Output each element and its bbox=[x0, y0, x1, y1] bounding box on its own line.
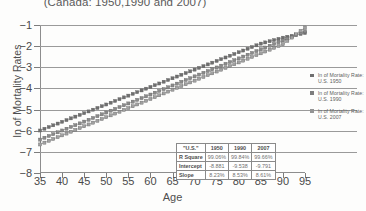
data-point-marker bbox=[61, 134, 64, 137]
data-point-marker bbox=[136, 91, 139, 94]
data-point-marker bbox=[162, 80, 165, 83]
legend-item[interactable]: ln of Mortality Rate:U.S. 1950 bbox=[310, 72, 366, 84]
data-point-marker bbox=[237, 57, 240, 60]
data-point-marker bbox=[69, 130, 72, 133]
data-point-marker bbox=[118, 110, 121, 113]
x-axis-label: 90 bbox=[277, 175, 289, 187]
data-point-marker bbox=[250, 55, 253, 58]
data-point-marker bbox=[114, 99, 117, 102]
data-point-marker bbox=[211, 72, 214, 75]
data-series bbox=[38, 30, 306, 141]
data-point-marker bbox=[122, 96, 125, 99]
data-point-marker bbox=[255, 50, 258, 53]
data-point-marker bbox=[96, 119, 99, 122]
table-cell: 99.84% bbox=[228, 153, 251, 162]
data-point-marker bbox=[122, 108, 125, 111]
data-point-marker bbox=[105, 103, 108, 106]
legend-item[interactable]: ln of Mortality Rate:U.S. 2007 bbox=[310, 108, 366, 120]
data-point-marker bbox=[149, 93, 152, 96]
data-point-marker bbox=[100, 117, 103, 120]
legend-swatch-icon bbox=[310, 109, 314, 113]
data-point-marker bbox=[87, 123, 90, 126]
data-point-marker bbox=[273, 39, 276, 42]
data-point-marker bbox=[224, 56, 227, 59]
data-point-marker bbox=[259, 48, 262, 51]
data-point-marker bbox=[184, 78, 187, 81]
data-point-marker bbox=[180, 80, 183, 83]
legend-label-line2: U.S. 1990 bbox=[318, 96, 366, 102]
data-point-marker bbox=[87, 110, 90, 113]
data-point-marker bbox=[264, 46, 267, 49]
data-point-marker bbox=[38, 143, 41, 146]
data-point-marker bbox=[69, 125, 72, 128]
data-point-marker bbox=[215, 70, 218, 73]
data-point-marker bbox=[246, 47, 249, 50]
data-point-marker bbox=[184, 83, 187, 86]
x-axis-label: 55 bbox=[122, 175, 134, 187]
data-point-marker bbox=[131, 92, 134, 95]
data-point-marker bbox=[277, 45, 280, 48]
chart-legend: ln of Mortality Rate:U.S. 1950ln of Mort… bbox=[310, 72, 366, 126]
data-point-marker bbox=[162, 88, 165, 91]
data-point-marker bbox=[153, 96, 156, 99]
legend-label: ln of Mortality Rate:U.S. 1990 bbox=[318, 90, 366, 102]
data-point-marker bbox=[233, 63, 236, 66]
y-axis-label: −1 bbox=[19, 19, 32, 31]
data-point-marker bbox=[175, 82, 178, 85]
data-point-marker bbox=[180, 73, 183, 76]
data-point-marker bbox=[175, 86, 178, 89]
y-axis-label: −7 bbox=[19, 146, 32, 158]
table-cell: 99.66% bbox=[252, 153, 275, 162]
data-point-marker bbox=[224, 66, 227, 69]
data-point-marker bbox=[153, 84, 156, 87]
table-cell: -9.791 bbox=[252, 162, 275, 171]
data-point-marker bbox=[131, 105, 134, 108]
data-point-marker bbox=[100, 113, 103, 116]
data-point-marker bbox=[171, 84, 174, 87]
chart-root: (Canada: 1950,1990 and 2007) ln of Morta… bbox=[0, 0, 366, 211]
data-point-marker bbox=[47, 134, 50, 137]
table-cell: -8.881 bbox=[205, 162, 228, 171]
data-point-marker bbox=[114, 107, 117, 110]
data-point-marker bbox=[268, 48, 271, 51]
data-point-marker bbox=[268, 44, 271, 47]
data-point-marker bbox=[197, 66, 200, 69]
legend-label: ln of Mortality Rate:U.S. 2007 bbox=[318, 108, 366, 120]
data-point-marker bbox=[228, 60, 231, 63]
table-row: Slope 8.23% 8.53% 8.61% bbox=[177, 171, 276, 180]
data-point-marker bbox=[167, 90, 170, 93]
table-cell: 99.06% bbox=[205, 153, 228, 162]
data-point-marker bbox=[197, 77, 200, 80]
data-point-marker bbox=[242, 55, 245, 58]
data-point-marker bbox=[171, 88, 174, 91]
data-point-marker bbox=[96, 115, 99, 118]
data-point-marker bbox=[65, 132, 68, 135]
legend-item[interactable]: ln of Mortality Rate:U.S. 1990 bbox=[310, 90, 366, 102]
data-point-marker bbox=[228, 65, 231, 68]
y-axis-label: −3 bbox=[19, 61, 32, 73]
data-point-marker bbox=[233, 59, 236, 62]
data-point-marker bbox=[189, 77, 192, 80]
data-point-marker bbox=[211, 68, 214, 71]
x-axis-label: 50 bbox=[100, 175, 112, 187]
legend-label-line2: U.S. 1950 bbox=[318, 78, 366, 84]
data-point-marker bbox=[52, 133, 55, 136]
data-point-marker bbox=[91, 121, 94, 124]
data-point-marker bbox=[91, 108, 94, 111]
data-point-marker bbox=[122, 104, 125, 107]
data-point-marker bbox=[65, 119, 68, 122]
data-point-marker bbox=[158, 94, 161, 97]
x-axis-label: 45 bbox=[78, 175, 90, 187]
legend-label: ln of Mortality Rate:U.S. 1950 bbox=[318, 72, 366, 84]
data-point-marker bbox=[52, 124, 55, 127]
table-row-label: Slope bbox=[177, 171, 206, 180]
data-point-marker bbox=[277, 37, 280, 40]
data-point-marker bbox=[167, 86, 170, 89]
data-point-marker bbox=[69, 117, 72, 120]
data-point-marker bbox=[140, 101, 143, 104]
data-point-marker bbox=[281, 43, 284, 46]
data-point-marker bbox=[202, 71, 205, 74]
data-point-marker bbox=[144, 87, 147, 90]
table-cell: 8.61% bbox=[252, 171, 275, 180]
table-header-row: "U.S." 1950 1990 2007 bbox=[177, 144, 276, 153]
